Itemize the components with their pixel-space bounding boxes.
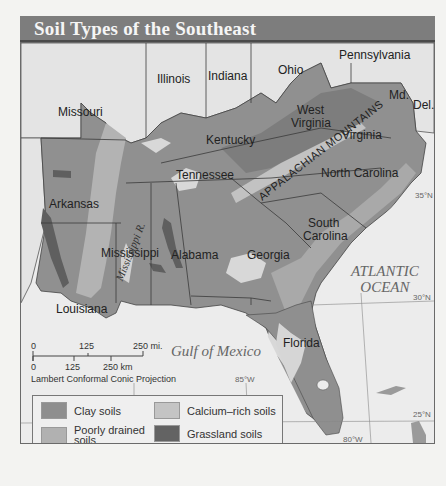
- legend-item-clay: Clay soils: [41, 402, 166, 419]
- scale-mi-0: 0: [31, 341, 36, 351]
- scale-km-250: 250 km: [103, 362, 133, 372]
- title-bar: Soil Types of the Southeast: [20, 16, 435, 42]
- state-label-missouri: Missouri: [58, 105, 103, 119]
- state-label-kentucky: Kentucky: [206, 133, 255, 147]
- legend: Clay soils Poorly drained soils Upland s…: [32, 395, 283, 444]
- longitude-80-label: 80°W: [343, 435, 363, 444]
- map-frame: Missouri Illinois Indiana Ohio Pennsylva…: [20, 42, 435, 444]
- swatch-calcium-rich: [154, 402, 180, 419]
- state-label-delaware: Del.: [413, 98, 434, 112]
- state-label-alabama: Alabama: [171, 248, 218, 262]
- lake-okeechobee: [317, 380, 329, 390]
- latitude-25-label: 25°N: [413, 410, 431, 419]
- legend-item-calcium-rich: Calcium–rich soils: [154, 402, 297, 419]
- scale-mi-250: 250 mi.: [133, 341, 163, 351]
- atlantic-ocean-label: ATLANTIC OCEAN: [351, 263, 419, 295]
- swatch-poorly-drained: [41, 427, 67, 444]
- map-title: Soil Types of the Southeast: [34, 18, 256, 40]
- state-label-pennsylvania: Pennsylvania: [339, 48, 410, 62]
- scale-km-0: 0: [31, 362, 36, 372]
- state-label-arkansas: Arkansas: [49, 197, 99, 211]
- scale-km-125: 125: [65, 362, 80, 372]
- state-label-florida: Florida: [283, 336, 320, 350]
- swatch-clay: [41, 402, 67, 419]
- legend-item-poorly-drained: Poorly drained soils: [41, 425, 166, 444]
- state-label-maryland: Md.: [389, 88, 409, 102]
- state-label-louisiana: Louisiana: [56, 302, 107, 316]
- latitude-35-label: 35°N: [415, 191, 433, 200]
- legend-item-grassland: Grassland soils: [154, 425, 297, 442]
- projection-label: Lambert Conformal Conic Projection: [31, 374, 176, 384]
- state-label-south-carolina-1: South: [308, 216, 339, 230]
- state-label-west-virginia-2: Virginia: [291, 116, 331, 130]
- longitude-85-label: 85°W: [235, 375, 255, 384]
- swatch-grassland: [154, 425, 180, 442]
- scale-mi-125: 125: [79, 341, 94, 351]
- latitude-30-label: 30°N: [413, 293, 431, 302]
- scale-bar: 0 125 250 mi. 0 125 250 km Lambert Confo…: [31, 341, 211, 397]
- state-label-indiana: Indiana: [208, 69, 247, 83]
- state-label-south-carolina-2: Carolina: [303, 229, 348, 243]
- grassland-soils-arkansas: [53, 170, 71, 178]
- state-label-georgia: Georgia: [247, 248, 290, 262]
- state-label-illinois: Illinois: [157, 72, 190, 86]
- state-label-tennessee: Tennessee: [176, 168, 234, 182]
- state-label-north-carolina: North Carolina: [321, 166, 398, 180]
- state-label-ohio: Ohio: [278, 63, 303, 77]
- state-label-west-virginia-1: West: [297, 103, 324, 117]
